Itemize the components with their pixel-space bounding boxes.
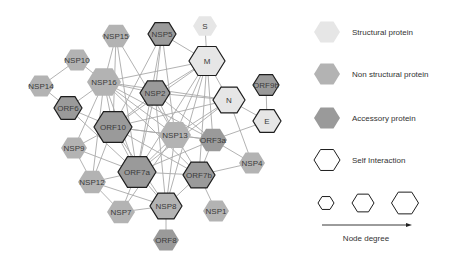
- node-label: NSP14: [28, 82, 54, 91]
- medium-hexagon-icon: [352, 194, 374, 212]
- legend-label-structural: Structural protein: [352, 28, 413, 37]
- ppi-network-diagram: SNSP15NSP5MNSP10NSP16NSP14NSP2ORF9bNORF6…: [0, 0, 460, 267]
- node-label: ORF6: [57, 104, 79, 113]
- node-label: ORF7b: [186, 171, 212, 180]
- legend: Structural protein Non structural protei…: [314, 22, 428, 243]
- node-orf8[interactable]: ORF8: [153, 230, 179, 251]
- node-label: NSP15: [103, 32, 129, 41]
- node-nsp15[interactable]: NSP15: [102, 25, 130, 48]
- network-nodes: SNSP15NSP5MNSP10NSP16NSP14NSP2ORF9bNORF6…: [28, 16, 281, 250]
- node-nsp5[interactable]: NSP5: [148, 23, 176, 46]
- node-label: ORF9b: [253, 81, 279, 90]
- node-s[interactable]: S: [193, 16, 217, 35]
- node-label: M: [204, 57, 211, 66]
- node-label: NSP12: [79, 178, 105, 187]
- legend-node-degree: Node degree: [318, 192, 419, 243]
- node-label: NSP4: [242, 159, 263, 168]
- non-structural-hexagon-icon: [314, 64, 340, 85]
- node-nsp4[interactable]: NSP4: [239, 153, 265, 174]
- node-e[interactable]: E: [253, 110, 281, 133]
- node-label: ORF8: [155, 236, 177, 245]
- large-hexagon-icon: [392, 192, 419, 214]
- legend-label-node-degree: Node degree: [343, 234, 390, 243]
- node-orf9b[interactable]: ORF9b: [253, 75, 279, 96]
- accessory-hexagon-icon: [314, 108, 340, 129]
- node-label: NSP13: [162, 131, 188, 140]
- node-label: S: [202, 22, 207, 31]
- legend-label-self-interaction: Self Interaction: [352, 156, 405, 165]
- self-interaction-hexagon-icon: [314, 150, 340, 171]
- arrow-head-icon: [406, 223, 412, 227]
- node-label: ORF3a: [200, 136, 226, 145]
- node-orf6[interactable]: ORF6: [54, 97, 82, 120]
- node-label: NSP10: [64, 56, 90, 65]
- node-label: NSP1: [206, 207, 227, 216]
- legend-label-non-structural: Non structural protein: [352, 70, 428, 79]
- legend-item-non-structural: Non structural protein: [314, 64, 428, 85]
- legend-item-accessory: Accessory protein: [314, 108, 416, 129]
- node-orf7b[interactable]: ORF7b: [183, 162, 215, 188]
- node-m[interactable]: M: [189, 47, 225, 76]
- small-hexagon-icon: [318, 197, 334, 210]
- node-label: NSP8: [156, 202, 177, 211]
- node-nsp12[interactable]: NSP12: [78, 171, 106, 194]
- node-label: E: [264, 117, 269, 126]
- node-label: N: [226, 96, 232, 105]
- structural-hexagon-icon: [314, 22, 340, 43]
- legend-label-accessory: Accessory protein: [352, 114, 416, 123]
- node-label: NSP7: [111, 208, 132, 217]
- node-nsp9[interactable]: NSP9: [61, 138, 87, 159]
- node-label: NSP16: [91, 78, 117, 87]
- node-nsp1[interactable]: NSP1: [203, 201, 229, 222]
- node-label: ORF7a: [124, 168, 150, 177]
- node-label: ORF10: [100, 123, 126, 132]
- node-label: NSP2: [145, 89, 166, 98]
- legend-item-self-interaction: Self Interaction: [314, 150, 405, 171]
- node-nsp7[interactable]: NSP7: [107, 201, 135, 224]
- node-label: NSP9: [64, 144, 85, 153]
- node-label: NSP5: [152, 30, 173, 39]
- node-nsp8[interactable]: NSP8: [150, 193, 182, 219]
- legend-item-structural: Structural protein: [314, 22, 413, 43]
